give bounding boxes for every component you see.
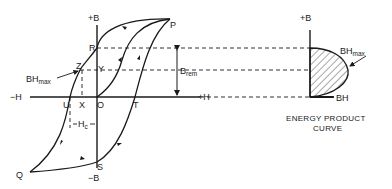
axis-label-minus-b: −B <box>88 173 99 183</box>
point-p: P <box>170 20 176 30</box>
axis-label-plus-h: +H <box>198 92 210 102</box>
point-q: Q <box>16 170 23 180</box>
point-t: T <box>133 100 139 110</box>
hc-label: Hc <box>78 119 89 130</box>
dashed-guides <box>70 48 310 128</box>
bhmax-leader <box>57 71 78 78</box>
axis-label-plus-b: +B <box>88 13 99 23</box>
point-u: U <box>63 100 70 110</box>
energy-axis-bh: BH <box>336 93 349 103</box>
energy-caption-line2: CURVE <box>313 124 342 133</box>
point-x: X <box>79 100 85 110</box>
energy-bhmax-label: BHmax <box>340 46 366 57</box>
energy-caption-line1: ENERGY PRODUCT <box>286 114 366 123</box>
axis-label-minus-h: −H <box>10 92 22 102</box>
point-s: S <box>97 162 103 172</box>
point-z: Z <box>76 61 82 71</box>
point-r: R <box>89 43 96 53</box>
energy-axis-plus-b: +B <box>300 13 311 23</box>
bhmax-label-main: BHmax <box>26 74 52 85</box>
hysteresis-diagram: +B −B −H +H P Q R S T U X Y Z O BHmax Hc… <box>0 0 392 189</box>
brem-label: Brem <box>180 66 197 77</box>
point-o: O <box>97 100 104 110</box>
point-y: Y <box>98 64 104 74</box>
hysteresis-loop <box>30 19 170 172</box>
energy-bhmax-leader <box>350 56 366 66</box>
